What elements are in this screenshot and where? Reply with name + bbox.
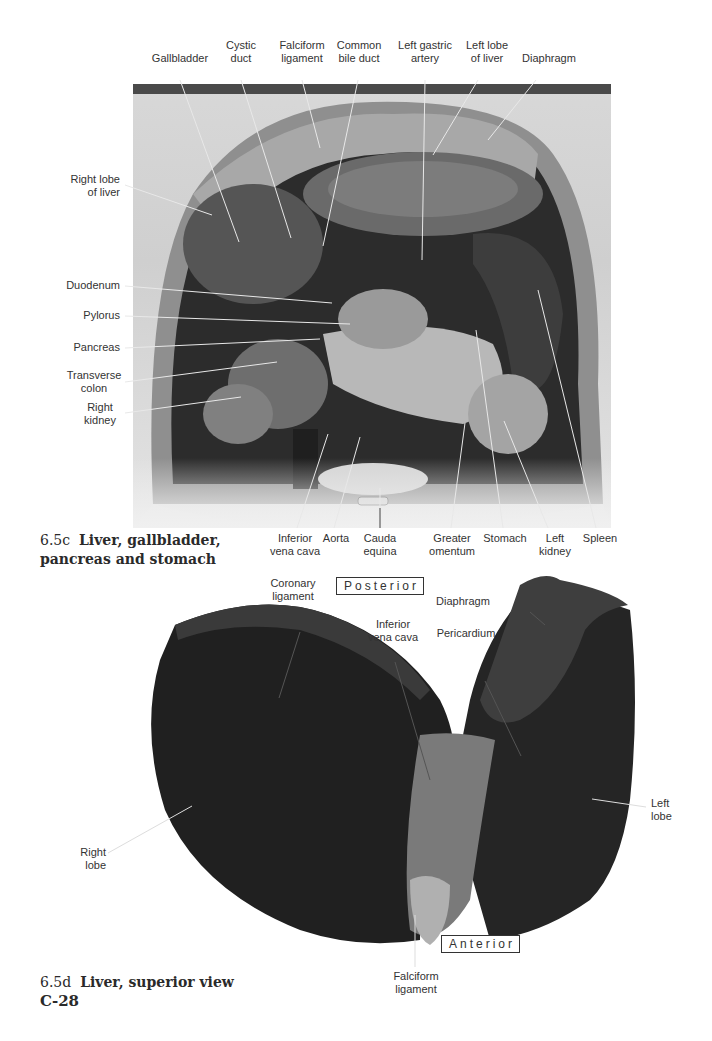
caption-figure-6-5d: 6.5d Liver, superior view: [40, 973, 300, 992]
orientation-posterior: Posterior: [336, 577, 424, 595]
label-inferior-vena-cava-d: Inferiorvena cava: [361, 618, 425, 644]
label-coronary-ligament: Coronaryligament: [268, 577, 318, 603]
liver-superior-view-illustration: [0, 0, 712, 1041]
label-falciform-ligament-d: Falciformligament: [388, 970, 444, 996]
label-left-lobe: Leftlobe: [651, 797, 691, 823]
label-diaphragm-d: Diaphragm: [432, 595, 494, 608]
page-number: C-28: [40, 992, 79, 1010]
label-pericardium: Pericardium: [433, 627, 499, 640]
label-right-lobe: Rightlobe: [62, 846, 106, 872]
orientation-anterior: Anterior: [441, 935, 520, 953]
